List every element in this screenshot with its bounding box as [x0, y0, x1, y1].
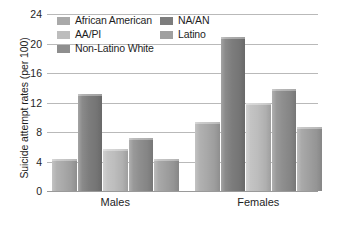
y-tick-label-4: 4 — [36, 156, 42, 168]
bar-shading — [154, 159, 179, 191]
bar-top-highlight — [154, 159, 179, 161]
bar — [103, 149, 128, 191]
legend-swatch — [160, 31, 173, 39]
legend-item: NA/AN — [160, 14, 209, 27]
chart-legend: African AmericanAA/PINon-Latino White NA… — [57, 14, 272, 54]
legend-column-left: African AmericanAA/PINon-Latino White — [57, 14, 154, 56]
bar-top-highlight — [246, 103, 271, 105]
bar — [52, 159, 77, 191]
legend-swatch — [57, 31, 70, 39]
y-axis-title: Suicide attempt rates (per 100) — [18, 23, 30, 193]
bar — [78, 94, 103, 191]
legend-swatch — [57, 17, 70, 25]
legend-item: African American — [57, 14, 154, 27]
bar — [272, 89, 297, 192]
bar-shading — [297, 127, 322, 191]
bar-shading — [195, 122, 220, 191]
category-label-females: Females — [218, 196, 298, 208]
bar-shading — [221, 37, 246, 191]
bar-shading — [78, 94, 103, 191]
legend-item: AA/PI — [57, 28, 154, 41]
bar-shading — [52, 159, 77, 191]
legend-label: AA/PI — [75, 29, 101, 40]
legend-label: Non-Latino White — [75, 43, 154, 54]
gridline-0: 0 — [47, 191, 318, 192]
bar — [221, 37, 246, 191]
legend-column-right: NA/ANLatino — [160, 14, 209, 42]
bar-top-highlight — [103, 149, 128, 151]
y-tick-label-20: 20 — [30, 38, 42, 50]
legend-swatch — [160, 17, 173, 25]
bar — [195, 122, 220, 191]
legend-swatch — [57, 45, 70, 53]
bar-shading — [129, 138, 154, 191]
bar — [129, 138, 154, 191]
legend-item: Latino — [160, 28, 209, 41]
bar-top-highlight — [129, 138, 154, 140]
bar — [154, 159, 179, 191]
legend-label: NA/AN — [178, 15, 209, 26]
legend-label: African American — [75, 15, 152, 26]
legend-label: Latino — [178, 29, 206, 40]
bar-shading — [103, 149, 128, 191]
bar-top-highlight — [272, 89, 297, 91]
bar-top-highlight — [78, 94, 103, 96]
bar-top-highlight — [297, 127, 322, 129]
y-tick-label-12: 12 — [30, 97, 42, 109]
bar-top-highlight — [195, 122, 220, 124]
bar-chart: Suicide attempt rates (per 100) 04812162… — [0, 0, 342, 232]
bar-shading — [272, 89, 297, 192]
bar-shading — [246, 103, 271, 191]
y-tick-label-0: 0 — [36, 185, 42, 197]
y-tick-label-24: 24 — [30, 8, 42, 20]
bar — [297, 127, 322, 191]
category-label-males: Males — [75, 196, 155, 208]
legend-item: Non-Latino White — [57, 42, 154, 55]
bar — [246, 103, 271, 191]
bar-top-highlight — [52, 159, 77, 161]
y-tick-label-16: 16 — [30, 67, 42, 79]
y-tick-label-8: 8 — [36, 126, 42, 138]
